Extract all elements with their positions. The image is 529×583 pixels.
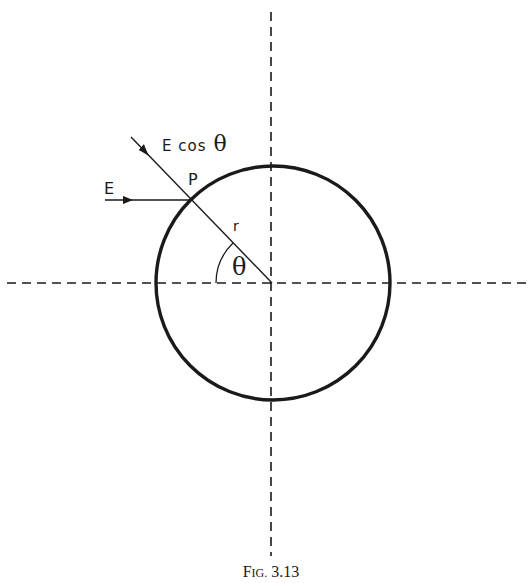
label-P: P bbox=[188, 170, 198, 189]
label-ecos-theta-symbol: θ bbox=[214, 131, 227, 156]
caption-big: F bbox=[243, 563, 252, 580]
caption-small: IG. bbox=[252, 566, 268, 580]
figure-caption: FIG. 3.13 bbox=[243, 563, 300, 580]
label-theta-angle: θ bbox=[232, 253, 246, 281]
field-arrowhead-icon bbox=[123, 196, 133, 204]
angle-arc bbox=[216, 243, 233, 283]
radial-line bbox=[131, 137, 272, 283]
diagram-canvas: E P r θ E cos θ FIG. 3.13 bbox=[0, 0, 529, 583]
label-E: E bbox=[104, 179, 114, 198]
label-ecos: E cos bbox=[162, 137, 207, 155]
label-ecos-theta: E cos θ bbox=[162, 131, 227, 156]
caption-number: 3.13 bbox=[267, 563, 299, 580]
label-r: r bbox=[233, 218, 239, 234]
